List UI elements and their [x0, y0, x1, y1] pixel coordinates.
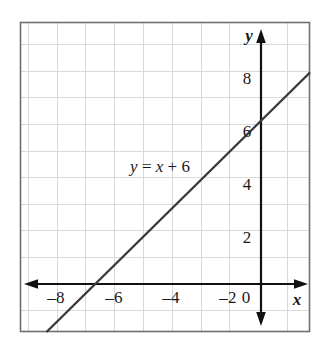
x-tick-label--6: –6	[105, 288, 122, 308]
equation-equals: =	[142, 157, 152, 176]
x-tick-label--8: –8	[47, 288, 64, 308]
x-tick-label-0: 0	[242, 288, 251, 308]
equation-lhs: y	[130, 157, 138, 176]
graph-figure: –8 –6 –4 –2 0 8 6 4 2 y x y = x + 6	[0, 0, 327, 356]
x-tick-label--2: –2	[219, 288, 236, 308]
equation-plus: +	[168, 157, 178, 176]
y-tick-label-6: 6	[243, 122, 252, 142]
y-tick-label-8: 8	[243, 69, 252, 89]
y-axis-name-label: y	[245, 26, 253, 46]
equation-constant: 6	[181, 157, 190, 176]
equation-annotation: y = x + 6	[130, 157, 190, 177]
y-tick-label-4: 4	[243, 175, 252, 195]
x-tick-label--4: –4	[162, 288, 179, 308]
plot-background	[20, 22, 310, 332]
y-tick-label-2: 2	[243, 228, 252, 248]
x-axis-name-label: x	[293, 290, 302, 310]
